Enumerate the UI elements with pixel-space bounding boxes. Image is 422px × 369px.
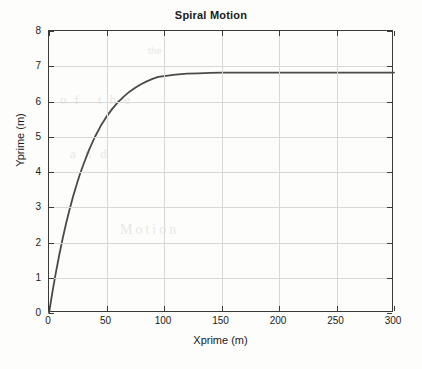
- gridline-vertical: [279, 31, 280, 311]
- y-tick-label: 0: [11, 307, 41, 318]
- y-tick-label: 7: [11, 60, 41, 71]
- x-tick-mark-top: [394, 31, 395, 36]
- gridline-horizontal: [49, 207, 392, 208]
- y-tick-mark-right: [387, 66, 392, 67]
- plot-area: [48, 30, 393, 312]
- y-tick-label: 4: [11, 166, 41, 177]
- y-tick-label: 1: [11, 271, 41, 282]
- x-tick-mark-top: [164, 31, 165, 36]
- x-tick-label: 150: [212, 315, 229, 326]
- y-tick-mark-right: [387, 243, 392, 244]
- y-tick-label: 3: [11, 201, 41, 212]
- y-tick-mark-right: [387, 313, 392, 314]
- gridline-horizontal: [49, 172, 392, 173]
- gridline-horizontal: [49, 278, 392, 279]
- y-tick-mark-right: [387, 137, 392, 138]
- x-tick-label: 0: [45, 315, 51, 326]
- x-tick-mark: [164, 306, 165, 311]
- x-tick-label: 100: [155, 315, 172, 326]
- x-tick-mark: [279, 306, 280, 311]
- gridline-horizontal: [49, 137, 392, 138]
- y-tick-mark: [49, 313, 54, 314]
- x-tick-mark: [49, 306, 50, 311]
- y-tick-mark-right: [387, 31, 392, 32]
- x-axis-label: Xprime (m): [48, 334, 393, 346]
- x-tick-mark-top: [107, 31, 108, 36]
- x-tick-mark-top: [222, 31, 223, 36]
- gridline-vertical: [337, 31, 338, 311]
- y-tick-mark-right: [387, 102, 392, 103]
- gridline-horizontal: [49, 243, 392, 244]
- gridline-vertical: [164, 31, 165, 311]
- x-tick-mark: [337, 306, 338, 311]
- y-tick-label: 2: [11, 236, 41, 247]
- x-tick-mark-top: [279, 31, 280, 36]
- figure-window: the of the and Motion Spiral Motion Xpri…: [0, 0, 422, 369]
- y-tick-label: 5: [11, 130, 41, 141]
- gridline-vertical: [107, 31, 108, 311]
- x-tick-label: 200: [270, 315, 287, 326]
- x-tick-label: 250: [327, 315, 344, 326]
- y-tick-mark: [49, 278, 54, 279]
- y-tick-mark: [49, 172, 54, 173]
- y-tick-mark: [49, 243, 54, 244]
- y-tick-mark-right: [387, 172, 392, 173]
- x-tick-label: 300: [385, 315, 402, 326]
- y-tick-mark: [49, 31, 54, 32]
- y-tick-mark: [49, 137, 54, 138]
- y-tick-mark: [49, 207, 54, 208]
- gridline-horizontal: [49, 102, 392, 103]
- y-tick-mark: [49, 66, 54, 67]
- x-tick-mark-top: [337, 31, 338, 36]
- y-tick-mark: [49, 102, 54, 103]
- x-tick-label: 50: [100, 315, 111, 326]
- gridline-horizontal: [49, 66, 392, 67]
- y-tick-label: 6: [11, 95, 41, 106]
- gridline-vertical: [222, 31, 223, 311]
- x-tick-mark: [222, 306, 223, 311]
- y-tick-mark-right: [387, 207, 392, 208]
- x-tick-mark: [394, 306, 395, 311]
- y-tick-mark-right: [387, 278, 392, 279]
- y-tick-label: 8: [11, 25, 41, 36]
- chart-title: Spiral Motion: [0, 9, 422, 21]
- x-tick-mark: [107, 306, 108, 311]
